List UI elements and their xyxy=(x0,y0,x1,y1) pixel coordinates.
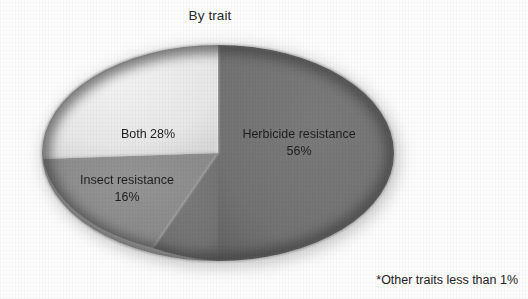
pie-chart xyxy=(0,0,528,299)
chart-footnote: *Other traits less than 1% xyxy=(376,273,518,287)
chart-figure: By trait xyxy=(0,0,528,299)
pie-slices xyxy=(42,45,394,261)
pie-slice-herbicide[interactable] xyxy=(218,45,394,261)
